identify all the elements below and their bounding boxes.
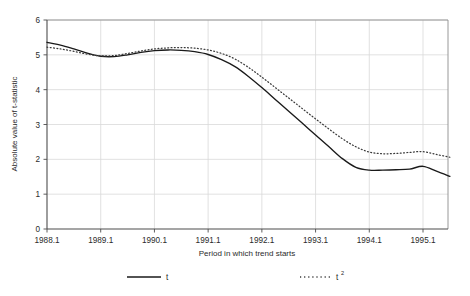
y-tick-label-0: 0 [35, 225, 40, 234]
y-tick-label-1: 1 [35, 190, 40, 199]
y-tick-label-3: 3 [35, 121, 40, 130]
x-tick-label-1990.1: 1990.1 [142, 236, 167, 245]
y-axis-title: Absolute value of t-statistic [10, 76, 19, 171]
x-tick-label-1994.1: 1994.1 [357, 236, 382, 245]
t-statistic-line-chart: 0123456 1988.11989.11990.11991.11992.119… [0, 0, 470, 296]
x-tick-label-1995.1: 1995.1 [410, 236, 435, 245]
legend-label-t-squared-exponent: 2 [341, 270, 344, 276]
legend-label-t: t [166, 273, 169, 282]
x-tick-label-1991.1: 1991.1 [196, 236, 221, 245]
chart-legend: t t 2 [127, 270, 344, 282]
y-tick-label-2: 2 [35, 155, 40, 164]
x-tick-label-1988.1: 1988.1 [34, 236, 59, 245]
y-tick-label-5: 5 [35, 51, 40, 60]
x-axis-title: Period in which trend starts [199, 249, 296, 258]
x-tick-label-1992.1: 1992.1 [249, 236, 274, 245]
y-tick-label-6: 6 [35, 16, 40, 25]
x-axis-tick-labels: 1988.11989.11990.11991.11992.11993.11994… [34, 236, 435, 245]
y-axis-tick-labels: 0123456 [35, 16, 40, 234]
chart-figure: 0123456 1988.11989.11990.11991.11992.119… [0, 0, 470, 296]
legend-label-t-squared: t [336, 273, 339, 282]
y-tick-label-4: 4 [35, 86, 40, 95]
x-tick-label-1993.1: 1993.1 [303, 236, 328, 245]
x-tick-label-1989.1: 1989.1 [88, 236, 113, 245]
